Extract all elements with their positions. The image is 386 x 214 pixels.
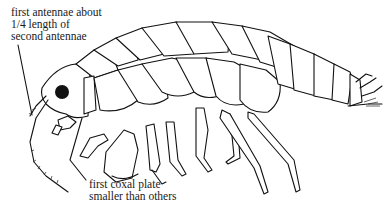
legs <box>52 108 300 194</box>
eye <box>55 85 69 99</box>
amphipod-drawing <box>0 0 386 214</box>
leader-line-antennae <box>18 45 32 115</box>
second-antenna <box>30 100 68 192</box>
body <box>42 22 383 118</box>
